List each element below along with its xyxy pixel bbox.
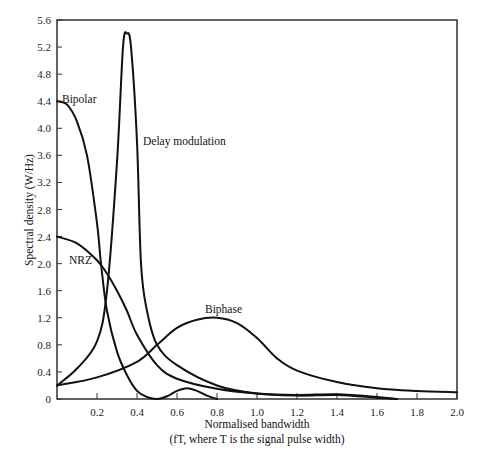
- y-tick-label: 1.2: [37, 312, 51, 324]
- y-tick-label: 0.8: [37, 339, 51, 351]
- y-axis-ticks: 00.40.81.21.62.02.42.83.23.64.04.44.85.2…: [37, 14, 62, 405]
- spectral-density-chart: 00.40.81.21.62.02.42.83.23.64.04.44.85.2…: [0, 0, 485, 460]
- y-tick-label: 4.8: [37, 68, 51, 80]
- y-tick-label: 3.2: [37, 176, 51, 188]
- y-tick-label: 2.0: [37, 258, 51, 270]
- y-tick-label: 2.4: [37, 231, 51, 243]
- y-tick-label: 4.0: [37, 122, 51, 134]
- y-tick-label: 3.6: [37, 149, 51, 161]
- curve-delay-modulation: [57, 32, 397, 399]
- y-tick-label: 5.2: [37, 41, 51, 53]
- y-axis-label: Spectral density (W/Hz): [23, 154, 36, 266]
- x-tick-label: 1.8: [410, 406, 424, 418]
- x-axis-label: Normalised bandwidth: [204, 418, 309, 430]
- label-nrz: NRZ: [69, 254, 92, 266]
- x-tick-label: 0.2: [90, 406, 104, 418]
- label-delay-modulation: Delay modulation: [143, 135, 226, 148]
- label-biphase: Biphase: [205, 303, 242, 316]
- x-tick-label: 1.2: [290, 406, 304, 418]
- y-tick-label: 4.4: [37, 95, 51, 107]
- x-tick-label: 0.8: [210, 406, 224, 418]
- label-bipolar: Bipolar: [62, 93, 97, 106]
- plot-frame: [57, 20, 457, 399]
- x-tick-label: 0.4: [130, 406, 144, 418]
- curves: [57, 32, 457, 399]
- y-tick-label: 2.8: [37, 204, 51, 216]
- x-tick-label: 1.6: [370, 406, 384, 418]
- y-tick-label: 1.6: [37, 285, 51, 297]
- x-tick-label: 1.4: [330, 406, 344, 418]
- x-tick-label: 1.0: [250, 406, 264, 418]
- x-tick-label: 0.6: [170, 406, 184, 418]
- y-tick-label: 5.6: [37, 14, 51, 26]
- y-tick-label: 0: [46, 393, 52, 405]
- x-axis-sublabel: (fT, where T is the signal pulse width): [169, 433, 344, 446]
- y-tick-label: 0.4: [37, 366, 51, 378]
- curve-biphase: [57, 318, 457, 393]
- x-tick-label: 2.0: [450, 406, 464, 418]
